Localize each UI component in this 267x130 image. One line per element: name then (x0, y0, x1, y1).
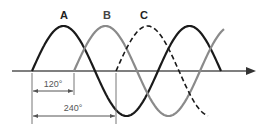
dim-arrow-icon (33, 114, 38, 118)
label-c: C (140, 9, 148, 21)
three-phase-diagram: A B C 120° 240° (0, 0, 267, 130)
label-b: B (103, 9, 111, 21)
dim-arrow-icon (33, 89, 38, 93)
axis-arrow-icon (246, 67, 256, 75)
phase-240-label: 240° (64, 103, 83, 113)
dim-arrow-icon (110, 114, 115, 118)
dim-arrow-icon (68, 89, 73, 93)
phase-120-label: 120° (44, 79, 63, 89)
label-a: A (60, 9, 68, 21)
